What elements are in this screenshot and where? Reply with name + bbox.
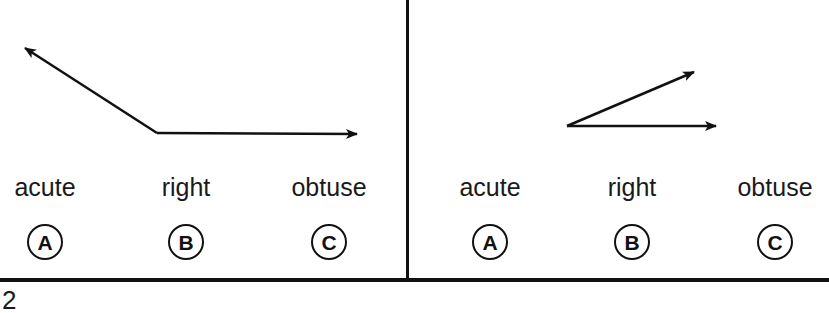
bubble-letter: B [624,232,639,253]
vertical-divider [406,0,409,282]
choice-label-obtuse: obtuse [737,172,812,202]
angle-obtuse-figure [25,48,357,134]
horizontal-rule [0,278,829,282]
ray-right [157,133,357,134]
answer-bubble-b[interactable]: B [614,224,650,260]
angle-acute-figure [567,72,716,126]
choice-label-acute: acute [459,172,520,202]
bubble-letter: B [178,232,193,253]
choice-label-right: right [162,172,211,202]
choice-label-right: right [608,172,657,202]
answer-bubble-c[interactable]: C [311,224,347,260]
bubble-letter: C [321,232,336,253]
answer-bubble-b[interactable]: B [168,224,204,260]
choice-label-obtuse: obtuse [291,172,366,202]
choice-label-acute: acute [14,172,75,202]
angle-figures [0,0,829,280]
answer-bubble-a[interactable]: A [472,224,508,260]
bubble-letter: A [37,232,52,253]
ray-up-right [567,72,694,126]
bubble-letter: A [482,232,497,253]
bubble-letter: C [767,232,782,253]
question-number: 2 [2,285,16,313]
answer-bubble-c[interactable]: C [757,224,793,260]
answer-bubble-a[interactable]: A [27,224,63,260]
ray-up-left [25,48,157,133]
